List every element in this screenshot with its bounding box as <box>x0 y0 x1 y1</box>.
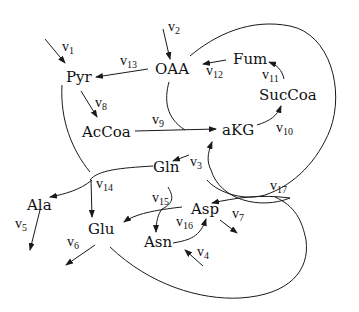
flux-v9: v9 <box>152 113 164 129</box>
node-fum: Fum <box>233 52 267 67</box>
metabolic-network-diagram: Pyr OAA Fum SucCoa AcCoa aKG Gln Ala Glu… <box>0 0 359 312</box>
node-glu: Glu <box>88 222 114 237</box>
flux-v3: v3 <box>190 155 202 171</box>
flux-v12: v12 <box>206 64 223 80</box>
node-akg: aKG <box>222 123 254 138</box>
flux-v8: v8 <box>95 96 107 112</box>
edge-v14-glu <box>91 180 92 217</box>
node-gln: Gln <box>153 160 179 175</box>
node-pyr: Pyr <box>66 70 92 85</box>
edge-v9 <box>135 129 216 131</box>
node-oaa: OAA <box>155 62 189 77</box>
node-asn: Asn <box>144 235 172 250</box>
flux-v14: v14 <box>96 177 113 193</box>
flux-v17: v17 <box>270 179 287 195</box>
flux-v10: v10 <box>276 121 293 137</box>
edge-v14-ala <box>50 180 92 197</box>
flux-v4: v4 <box>197 245 209 261</box>
flux-v15: v15 <box>152 191 169 207</box>
flux-v13: v13 <box>120 54 137 70</box>
flux-v6: v6 <box>67 235 79 251</box>
flux-v16: v16 <box>176 215 193 231</box>
edge-v13 <box>96 69 148 77</box>
flux-v5: v5 <box>15 217 27 233</box>
edge-asp-glu <box>124 207 182 222</box>
flux-v7: v7 <box>232 207 244 223</box>
reaction-edges <box>0 0 359 312</box>
node-succoa: SucCoa <box>259 88 317 103</box>
edge-v5 <box>30 210 40 250</box>
node-asp: Asp <box>191 202 219 217</box>
flux-v1: v1 <box>62 40 74 56</box>
flux-v2: v2 <box>168 20 180 36</box>
flux-v11: v11 <box>262 68 279 84</box>
edge-v9-oaa <box>167 82 185 130</box>
node-ala: Ala <box>27 198 52 213</box>
node-accoa: AcCoa <box>82 125 131 140</box>
